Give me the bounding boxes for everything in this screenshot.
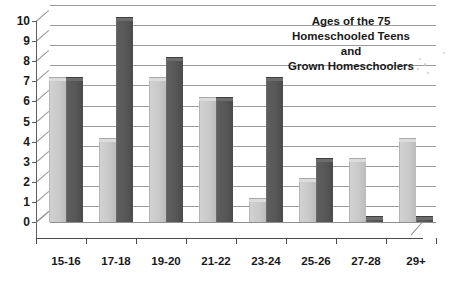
floor-front-edge bbox=[36, 238, 423, 239]
bar-face bbox=[99, 142, 116, 222]
bar-face bbox=[49, 81, 66, 222]
y-axis-tick-label: 1 bbox=[4, 196, 30, 208]
bar-25-26-s2 bbox=[316, 162, 333, 222]
bar-face bbox=[249, 202, 266, 222]
bar-top-cap bbox=[249, 198, 266, 202]
x-axis-tick bbox=[236, 238, 237, 244]
bar-face bbox=[66, 81, 83, 222]
x-axis-tick-label-21-22: 21-22 bbox=[201, 256, 230, 268]
x-axis-tick bbox=[186, 238, 187, 244]
bar-top-cap bbox=[66, 77, 83, 81]
bar-25-26-s1 bbox=[299, 182, 316, 222]
bar-27-28-s2 bbox=[366, 220, 383, 222]
y-axis-tick-label: 9 bbox=[4, 35, 30, 47]
x-axis-label-group: 15-1617-1819-2021-2223-2425-2627-2829+ bbox=[36, 256, 436, 276]
chart-title: Ages of the 75Homeschooled TeensandGrown… bbox=[268, 14, 434, 74]
gridline bbox=[50, 5, 436, 6]
bar-chart: 012345678910 15-1617-1819-2021-2223-2425… bbox=[0, 0, 458, 283]
scan-artifact bbox=[427, 72, 429, 74]
bar-top-cap bbox=[316, 158, 333, 162]
y-axis-tick-label: 2 bbox=[4, 176, 30, 188]
bar-top-cap bbox=[416, 216, 433, 220]
y-axis-tick-label: 10 bbox=[4, 15, 30, 27]
bar-face bbox=[399, 142, 416, 222]
chart-title-line-1: Ages of the 75 bbox=[268, 14, 434, 29]
x-axis-tick bbox=[286, 238, 287, 244]
chart-title-line-4: Grown Homeschoolers bbox=[268, 59, 434, 74]
scan-artifact bbox=[443, 52, 445, 54]
bar-23-24-s2 bbox=[266, 81, 283, 222]
bar-top-cap bbox=[166, 57, 183, 61]
bar-19-20-s1 bbox=[149, 81, 166, 222]
x-axis-tick-label-17-18: 17-18 bbox=[101, 256, 130, 268]
x-axis-tick-label-25-26: 25-26 bbox=[301, 256, 330, 268]
y-axis-tick-label: 8 bbox=[4, 55, 30, 67]
bar-top-cap bbox=[49, 77, 66, 81]
bar-27-28-s1 bbox=[349, 162, 366, 222]
bar-top-cap bbox=[299, 178, 316, 182]
y-axis-tick-label: 4 bbox=[4, 136, 30, 148]
bar-face bbox=[199, 101, 216, 222]
bar-top-cap bbox=[99, 138, 116, 142]
bar-15-16-s1 bbox=[49, 81, 66, 222]
bar-top-cap bbox=[116, 17, 133, 21]
x-axis-tick bbox=[386, 238, 387, 244]
y-axis-tick-label: 3 bbox=[4, 156, 30, 168]
y-axis-tick-label: 0 bbox=[4, 216, 30, 228]
chart-floor bbox=[36, 221, 436, 239]
bar-top-cap bbox=[199, 97, 216, 101]
bar-top-cap bbox=[266, 77, 283, 81]
bar-17-18-s2 bbox=[116, 21, 133, 222]
bar-face bbox=[216, 101, 233, 222]
x-axis-tick bbox=[336, 238, 337, 244]
bar-face bbox=[266, 81, 283, 222]
x-axis-tick bbox=[86, 238, 87, 244]
floor-back-edge bbox=[50, 222, 436, 223]
bar-top-cap bbox=[399, 138, 416, 142]
y-axis-tick-label: 7 bbox=[4, 75, 30, 87]
bar-top-cap bbox=[216, 97, 233, 101]
bar-top-cap bbox=[149, 77, 166, 81]
bar-top-cap bbox=[349, 158, 366, 162]
bar-face bbox=[366, 220, 383, 222]
bar-19-20-s2 bbox=[166, 61, 183, 222]
chart-title-line-3: and bbox=[268, 44, 434, 59]
bar-23-24-s1 bbox=[249, 202, 266, 222]
bar-face bbox=[316, 162, 333, 222]
y-axis-label-group: 012345678910 bbox=[0, 0, 30, 283]
scan-artifact bbox=[424, 63, 426, 66]
x-axis-tick bbox=[36, 238, 37, 244]
y-axis-tick-label: 5 bbox=[4, 116, 30, 128]
bar-29plus-s2 bbox=[416, 220, 433, 222]
bar-21-22-s1 bbox=[199, 101, 216, 222]
x-axis-tick-label-23-24: 23-24 bbox=[251, 256, 280, 268]
scan-artifact bbox=[417, 68, 419, 70]
bar-29plus-s1 bbox=[399, 142, 416, 222]
bar-face bbox=[349, 162, 366, 222]
bar-face bbox=[166, 61, 183, 222]
x-axis-tick bbox=[136, 238, 137, 244]
x-axis-tick-label-27-28: 27-28 bbox=[351, 256, 380, 268]
bar-face bbox=[299, 182, 316, 222]
scan-artifact bbox=[419, 58, 421, 60]
bar-21-22-s2 bbox=[216, 101, 233, 222]
bar-15-16-s2 bbox=[66, 81, 83, 222]
x-axis-tick-label-29plus: 29+ bbox=[406, 256, 426, 268]
x-axis-tick-label-15-16: 15-16 bbox=[51, 256, 80, 268]
bar-17-18-s1 bbox=[99, 142, 116, 222]
bar-face bbox=[416, 220, 433, 222]
bar-top-cap bbox=[366, 216, 383, 220]
chart-title-line-2: Homeschooled Teens bbox=[268, 29, 434, 44]
bar-face bbox=[116, 21, 133, 222]
floor-right-edge bbox=[410, 222, 422, 235]
bar-face bbox=[149, 81, 166, 222]
y-axis-tick-label: 6 bbox=[4, 95, 30, 107]
x-axis-tick bbox=[436, 238, 437, 244]
x-axis-tick-label-19-20: 19-20 bbox=[151, 256, 180, 268]
